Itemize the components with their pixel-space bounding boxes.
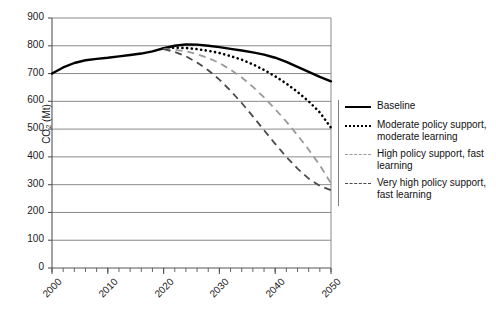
grid-lines [52,18,331,240]
legend-label-moderate: Moderate policy support, moderate learni… [377,119,487,142]
series-line [164,49,331,183]
solid-line-swatch [345,100,371,113]
x-axis-minor-ticks [52,268,331,272]
legend-label-high: High policy support, fast learning [377,148,484,171]
y-axis-tick-label: 100 [10,233,44,244]
dark-dashed-line-swatch [345,177,371,190]
x-axis-major-ticks [52,268,331,274]
dotted-line-swatch [345,119,371,132]
series-line [52,44,331,81]
y-axis-tick-label: 300 [10,178,44,189]
legend-item-moderate[interactable]: Moderate policy support, moderate learni… [345,119,494,142]
legend-label-very-high: Very high policy support, fast learning [377,177,486,200]
y-axis-tick-label: 200 [10,205,44,216]
y-axis-tick-label: 400 [10,150,44,161]
data-series-layer [52,44,331,190]
series-line [164,48,331,128]
chart-legend: Baseline Moderate policy support, modera… [338,100,494,206]
y-axis-tick-label: 600 [10,94,44,105]
y-axis-tick-label: 500 [10,122,44,133]
legend-item-baseline[interactable]: Baseline [345,100,494,113]
y-axis-tick-label: 700 [10,67,44,78]
y-axis-ticks [48,18,52,268]
y-axis-tick-label: 0 [10,261,44,272]
legend-item-high[interactable]: High policy support, fast learning [345,148,494,171]
legend-label-baseline: Baseline [377,100,415,112]
y-axis-tick-label: 900 [10,11,44,22]
legend-item-very-high[interactable]: Very high policy support, fast learning [345,177,494,200]
gray-dashed-line-swatch [345,148,371,161]
y-axis-tick-label: 800 [10,39,44,50]
